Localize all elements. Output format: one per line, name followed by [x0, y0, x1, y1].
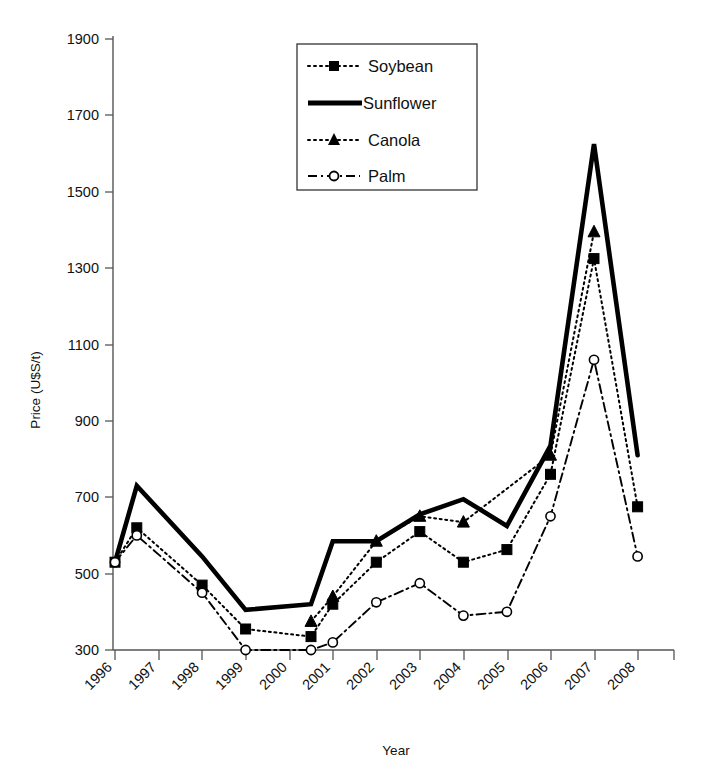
- filled-square-marker: [415, 527, 425, 537]
- filled-square-marker: [589, 254, 599, 264]
- filled-square-marker: [458, 557, 468, 567]
- y-tick-label: 1100: [68, 337, 99, 353]
- open-circle-marker: [198, 588, 207, 597]
- open-circle-marker: [241, 645, 250, 654]
- open-circle-marker: [328, 638, 337, 647]
- legend: Soybean Sunflower Canola Palm: [297, 44, 477, 190]
- y-axis-label: Price (U$S/t): [28, 351, 43, 428]
- filled-square-marker: [371, 557, 381, 567]
- filled-square-marker: [502, 545, 512, 555]
- open-circle-marker: [546, 512, 555, 521]
- y-tick-label: 1700: [67, 107, 99, 123]
- legend-label: Canola: [368, 131, 421, 149]
- open-circle-marker: [372, 598, 381, 607]
- open-circle-marker: [502, 607, 511, 616]
- open-circle-marker: [415, 579, 424, 588]
- y-tick-label: 700: [75, 489, 99, 505]
- filled-square-marker: [241, 624, 251, 634]
- filled-square-marker: [306, 632, 316, 642]
- open-circle-marker: [306, 645, 315, 654]
- legend-label: Soybean: [368, 57, 433, 75]
- legend-label: Sunflower: [363, 94, 437, 112]
- y-tick-label: 1500: [67, 184, 99, 200]
- open-circle-icon: [330, 172, 339, 181]
- open-circle-marker: [132, 531, 141, 540]
- chart-svg: 1900 1700 1500 1300 1100 900 700 500 300: [0, 0, 702, 777]
- y-tick-label: 1300: [67, 260, 99, 276]
- open-circle-marker: [633, 552, 642, 561]
- filled-square-marker: [633, 502, 643, 512]
- open-circle-marker: [459, 611, 468, 620]
- filled-square-marker: [546, 469, 556, 479]
- y-tick-label: 900: [75, 413, 99, 429]
- filled-square-icon: [329, 61, 339, 71]
- y-tick-label: 1900: [67, 31, 99, 47]
- x-axis-label: Year: [382, 743, 410, 758]
- legend-label: Palm: [368, 167, 406, 185]
- y-tick-label: 300: [75, 642, 99, 658]
- chart-figure: 1900 1700 1500 1300 1100 900 700 500 300: [0, 0, 702, 777]
- open-circle-marker: [589, 355, 598, 364]
- y-tick-label: 500: [75, 566, 99, 582]
- open-circle-marker: [110, 558, 119, 567]
